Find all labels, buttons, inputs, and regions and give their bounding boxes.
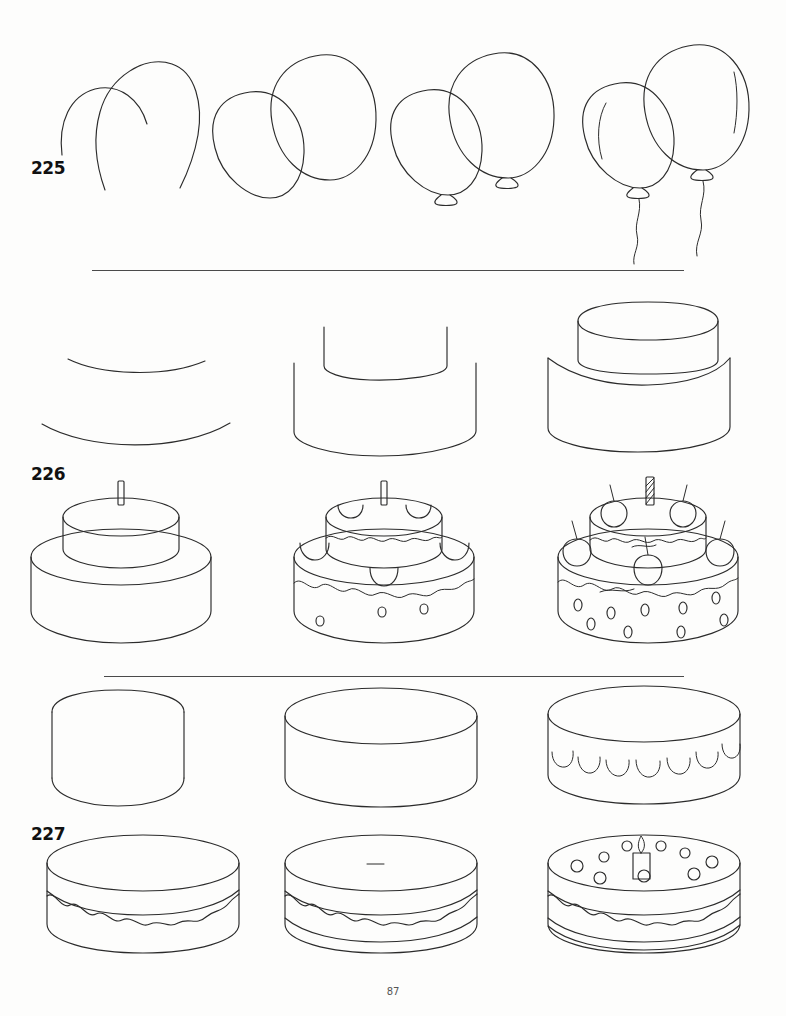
tier-cake-step-1-art (42, 359, 230, 445)
round-cake-step-6-art (548, 835, 740, 953)
tier-cake-step-2-art (294, 327, 476, 456)
tier-cake-step-6-art (558, 477, 738, 643)
page-number: 87 (0, 986, 786, 997)
tier-cake-step-5-art (294, 481, 474, 643)
balloon-step-2-art (213, 55, 376, 198)
round-cake-step-3-art (548, 686, 740, 804)
round-cake-step-5-art (285, 835, 477, 953)
round-cake-step-2-art (285, 688, 477, 807)
step-number-225: 225 (31, 158, 65, 178)
balloon-step-3-art (391, 53, 554, 206)
illustration-canvas (0, 0, 786, 1016)
tutorial-page: 225 226 227 87 (0, 0, 786, 1016)
step-number-226: 226 (31, 464, 65, 484)
balloon-step-1-art (61, 62, 199, 190)
divider-after-balloons (92, 270, 684, 271)
round-cake-step-4-art (47, 835, 239, 953)
round-cake-step-1-art (52, 690, 184, 806)
divider-after-tier-cake (104, 676, 684, 677)
balloon-step-4-art (583, 45, 749, 264)
step-number-227: 227 (31, 824, 65, 844)
tier-cake-step-4-art (31, 481, 211, 643)
tier-cake-step-3-art (548, 302, 730, 452)
